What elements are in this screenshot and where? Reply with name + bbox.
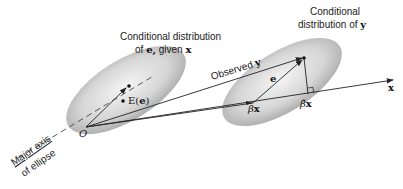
expectation-dot [121,99,125,103]
left-title-line1: Conditional distribution [120,31,221,42]
beta-hat-x-label: β̂x [299,98,313,109]
left-title-line2: of e, given x [135,44,192,56]
left-point-dot [127,84,131,88]
x-axis-label: x [388,82,395,93]
right-ellipse [208,21,355,144]
origin-label: O [79,128,87,139]
beta-x-label: βx [247,103,261,114]
expectation-label: E(e) [128,95,150,106]
diagram-canvas: Conditional distribution of e, given x E… [0,0,403,189]
error-label: e [270,73,276,84]
right-title-line2: distribution of y [298,19,367,30]
right-title-line1: Conditional [310,6,360,17]
